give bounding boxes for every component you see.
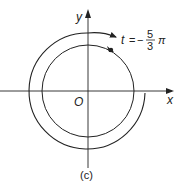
y-axis-arrow-icon xyxy=(85,9,91,18)
svg-text:=: = xyxy=(129,34,135,46)
figure-caption: (c) xyxy=(80,169,93,181)
svg-text:π: π xyxy=(158,34,166,46)
terminal-point xyxy=(109,48,113,52)
x-axis-label: x xyxy=(166,93,174,107)
svg-text:5: 5 xyxy=(147,28,153,40)
x-axis xyxy=(0,88,174,94)
svg-text:−: − xyxy=(137,34,143,46)
unit-circle-diagram: y x O t = − 5 3 π (c) xyxy=(0,0,178,184)
angle-annotation: t = − 5 3 π xyxy=(121,28,166,52)
y-axis-label: y xyxy=(75,10,83,24)
svg-text:t: t xyxy=(121,33,125,47)
origin-label: O xyxy=(74,95,83,109)
svg-text:3: 3 xyxy=(147,40,153,52)
